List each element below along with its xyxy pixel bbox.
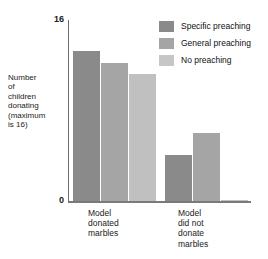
legend-label: No preaching bbox=[181, 55, 232, 65]
legend-item-general-preaching: General preaching bbox=[159, 35, 251, 51]
legend-item-no-preaching: No preaching bbox=[159, 52, 251, 68]
bar-general-preaching-donated bbox=[101, 63, 128, 201]
x-axis-group-label-donated: Model donated marbles bbox=[88, 208, 148, 239]
y-axis-tick-max: 16 bbox=[44, 14, 64, 24]
bar-chart: 16 0 Number of children donating (maximu… bbox=[0, 0, 268, 259]
x-axis-group-label-not-donated: Model did not donate marbles bbox=[178, 208, 240, 249]
legend-swatch-icon bbox=[159, 38, 174, 49]
legend-item-specific-preaching: Specific preaching bbox=[159, 18, 251, 34]
bar-specific-preaching-not-donated bbox=[165, 155, 192, 201]
bar-general-preaching-not-donated bbox=[193, 133, 220, 201]
y-axis-label: Number of children donating (maximum is … bbox=[8, 73, 66, 129]
legend-swatch-icon bbox=[159, 55, 174, 66]
legend: Specific preaching General preaching No … bbox=[159, 18, 251, 69]
bar-no-preaching-not-donated bbox=[221, 200, 248, 201]
x-axis-line bbox=[68, 201, 251, 203]
legend-label: General preaching bbox=[181, 38, 251, 48]
legend-swatch-icon bbox=[159, 21, 174, 32]
bar-no-preaching-donated bbox=[129, 74, 156, 201]
y-axis-tick-zero: 0 bbox=[50, 195, 64, 205]
bar-specific-preaching-donated bbox=[73, 51, 100, 201]
legend-label: Specific preaching bbox=[181, 21, 250, 31]
bar-group-model-donated bbox=[69, 20, 159, 201]
